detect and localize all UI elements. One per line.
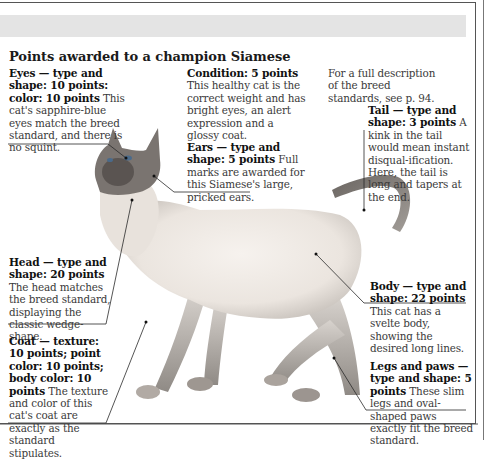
condition-text: This healthy cat is the correct weight a…: [187, 79, 305, 141]
ears-heading: Ears — type and shape: 5 points: [187, 141, 280, 165]
callout-ears: Ears — type and shape: 5 points Full mar…: [187, 141, 305, 203]
callout-head: Head — type and shape: 20 points The hea…: [9, 256, 113, 343]
callout-body: Body — type and shape: 22 points This ca…: [370, 280, 470, 354]
tail-heading: Tail — type and shape: 3 points: [368, 104, 456, 128]
body-text: This cat has a svelte body, showing the …: [370, 305, 464, 354]
condition-heading: Condition: 5 points: [187, 67, 298, 79]
callout-eyes: Eyes — type and shape: 10 points: color:…: [9, 67, 127, 154]
head-heading: Head — type and shape: 20 points: [9, 256, 107, 280]
tail-text: A kink in the tail would mean instant di…: [368, 116, 469, 202]
eyes-heading: Eyes — type and shape: 10 points: color:…: [9, 67, 108, 104]
callout-legs: Legs and paws — type and shape: 5 points…: [370, 360, 474, 447]
head-text: The head matches the breed standard, dis…: [9, 281, 111, 343]
callout-coat: Coat — texture: 10 points; point color: …: [9, 335, 109, 459]
breed-standards-reference: For a full description of the breed stan…: [328, 67, 438, 104]
body-heading: Body — type and shape: 22 points: [370, 280, 466, 304]
callout-tail: Tail — type and shape: 3 points A kink i…: [368, 104, 472, 203]
callout-condition: Condition: 5 points This healthy cat is …: [187, 67, 307, 141]
